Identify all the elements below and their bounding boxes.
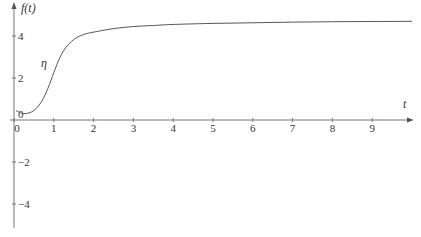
chart: 0123456789 420−2−4 f(t) t η [0,0,421,237]
series-annotation: η [41,56,47,70]
x-tick-label: 2 [91,122,97,134]
y-tick-label: −2 [18,156,30,168]
x-tick-label: 5 [210,122,216,134]
x-tick-label: 4 [170,122,176,134]
y-axis-arrow-icon [12,2,17,9]
axes [10,4,411,228]
series-line [16,21,412,113]
x-tick-label: 3 [131,122,137,134]
y-tick-label: 2 [18,72,24,84]
x-tick-label: 8 [330,122,336,134]
x-tick-label: 0 [14,122,20,134]
x-tick-label: 6 [250,122,256,134]
y-tick-label: 4 [18,30,24,42]
y-axis-label: f(t) [21,1,36,15]
x-tick-label: 9 [369,122,375,134]
x-tick-label: 1 [51,122,57,134]
x-axis-label: t [403,97,407,111]
x-tick-label: 7 [290,122,296,134]
y-tick-label: −4 [18,198,30,210]
x-axis-arrow-icon [407,118,414,123]
